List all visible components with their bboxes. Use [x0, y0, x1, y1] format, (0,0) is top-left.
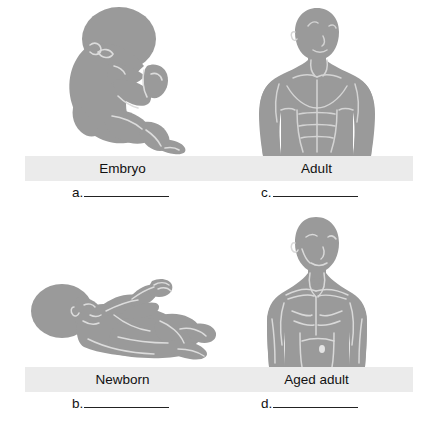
- embryo-illustration-cell: [25, 0, 220, 156]
- adult-torso-silhouette-icon: [251, 4, 383, 156]
- answer-blank-b-rule[interactable]: [84, 394, 169, 408]
- answer-blank-band-top: a. c.: [0, 183, 425, 209]
- answer-blank-d-letter: d.: [261, 396, 272, 411]
- answer-blank-band-bottom: b. d.: [0, 394, 425, 420]
- adult-illustration-cell: [220, 0, 413, 156]
- artwork-band-bottom: [0, 211, 425, 367]
- answer-blank-d[interactable]: d.: [261, 394, 358, 416]
- answer-blank-b[interactable]: b.: [72, 394, 169, 416]
- answer-blank-c-rule[interactable]: [273, 183, 358, 197]
- newborn-illustration-cell: [25, 211, 220, 367]
- answer-blank-a-rule[interactable]: [84, 183, 169, 197]
- newborn-silhouette-icon: [28, 267, 218, 367]
- caption-band-top: Embryo Adult: [25, 156, 413, 181]
- stage-row-top: Embryo Adult a. c.: [0, 0, 425, 211]
- embryo-silhouette-icon: [48, 4, 198, 156]
- answer-blank-a[interactable]: a.: [72, 183, 169, 205]
- stage-caption-aged-adult: Aged adult: [220, 367, 413, 392]
- stage-caption-embryo: Embryo: [25, 156, 220, 181]
- answer-blank-d-rule[interactable]: [273, 394, 358, 408]
- life-stages-figure: Embryo Adult a. c.: [0, 0, 425, 422]
- stage-row-bottom: Newborn Aged adult b. d.: [0, 211, 425, 422]
- stage-caption-adult: Adult: [220, 156, 413, 181]
- answer-blank-a-letter: a.: [72, 185, 83, 200]
- answer-blank-b-letter: b.: [72, 396, 83, 411]
- aged-adult-illustration-cell: [220, 211, 413, 367]
- artwork-band-top: [0, 0, 425, 156]
- stage-caption-newborn: Newborn: [25, 367, 220, 392]
- aged-adult-torso-silhouette-icon: [254, 215, 380, 367]
- answer-blank-c-letter: c.: [261, 185, 272, 200]
- answer-blank-c[interactable]: c.: [261, 183, 358, 205]
- caption-band-bottom: Newborn Aged adult: [25, 367, 413, 392]
